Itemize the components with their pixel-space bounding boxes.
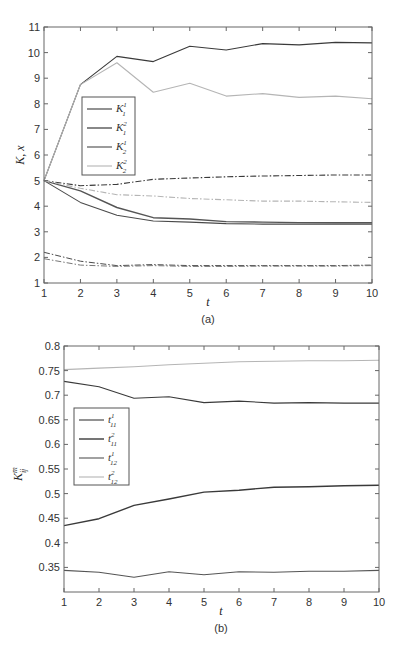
y-tick-label: 0.4 <box>45 537 60 549</box>
x-tick-label: 7 <box>260 287 266 299</box>
y-tick-label: 8 <box>34 98 40 110</box>
x-tick-label: 4 <box>166 596 172 608</box>
y-tick-label: 0.7 <box>45 389 60 401</box>
series-line-x-dashdot-lower-1 <box>44 252 372 265</box>
x-tick-label: 3 <box>114 287 120 299</box>
y-tick-label: 0.6 <box>45 438 60 450</box>
y-tick-label: 5 <box>34 175 40 187</box>
series-line-x-dashdot-light-upper <box>44 181 372 203</box>
y-tick-label: 0.35 <box>39 561 60 573</box>
y-tick-label: 1 <box>34 277 40 289</box>
y-tick-label: 10 <box>28 47 40 59</box>
chart-panel-b: 12345678910 0.350.40.450.50.550.60.650.7… <box>10 340 385 634</box>
y-tick-label: 11 <box>29 21 40 33</box>
x-tick-label: 2 <box>77 287 83 299</box>
y-tick-label: 0.8 <box>45 340 60 352</box>
chart-b-caption: (b) <box>214 622 227 634</box>
y-tick-label: 7 <box>34 123 40 135</box>
x-tick-label: 7 <box>271 596 277 608</box>
chart-b-ylabel-sub: ij <box>19 468 28 473</box>
series-line-t-11-1 <box>64 381 379 403</box>
y-tick-label: 6 <box>34 149 40 161</box>
chart-b-ylabel-sup: m <box>10 467 19 473</box>
x-tick-label: 1 <box>41 287 47 299</box>
x-tick-label: 9 <box>341 596 347 608</box>
x-tick-label: 9 <box>332 287 338 299</box>
chart-a-ylabel: K, x <box>13 145 27 166</box>
x-tick-label: 6 <box>223 287 229 299</box>
y-tick-label: 0.75 <box>39 365 60 377</box>
chart-panel-a: 12345678910 1234567891011 K11K21K12K22 t… <box>13 21 378 325</box>
x-tick-label: 4 <box>150 287 156 299</box>
chart-a-legend: K11K21K12K22 <box>82 97 135 175</box>
y-tick-label: 4 <box>34 200 40 212</box>
chart-a-xlabel: t <box>206 295 210 309</box>
x-tick-label: 8 <box>296 287 302 299</box>
x-tick-label: 10 <box>366 287 378 299</box>
x-tick-label: 5 <box>201 596 207 608</box>
y-tick-label: 0.65 <box>39 414 60 426</box>
x-tick-label: 8 <box>306 596 312 608</box>
x-tick-label: 1 <box>61 596 67 608</box>
y-tick-label: 0.45 <box>39 512 60 524</box>
series-line-t-12-1 <box>64 570 379 577</box>
chart-a-y-axis: 1234567891011 <box>28 21 372 289</box>
chart-b-ylabel: Kmij <box>10 467 28 482</box>
y-tick-label: 2 <box>34 251 40 263</box>
series-line-x-dashdot-dark-upper <box>44 175 372 186</box>
series-line-k-2-1 <box>44 181 372 225</box>
x-tick-label: 10 <box>373 596 385 608</box>
chart-b-xlabel: t <box>219 604 223 618</box>
y-tick-label: 9 <box>34 72 40 84</box>
y-tick-label: 3 <box>34 226 40 238</box>
y-tick-label: 0.55 <box>39 463 60 475</box>
y-tick-label: 0.5 <box>45 488 60 500</box>
chart-a-caption: (a) <box>201 313 214 325</box>
x-tick-label: 3 <box>131 596 137 608</box>
svg-text:Kmij: Kmij <box>10 467 28 482</box>
x-tick-label: 6 <box>236 596 242 608</box>
x-tick-label: 5 <box>187 287 193 299</box>
x-tick-label: 2 <box>96 596 102 608</box>
series-line-t-11-2 <box>64 485 379 525</box>
figure: 12345678910 1234567891011 K11K21K12K22 t… <box>0 0 401 650</box>
series-line-t-12-2 <box>64 360 379 369</box>
chart-b-legend: t111t211t112t212 <box>74 408 129 486</box>
